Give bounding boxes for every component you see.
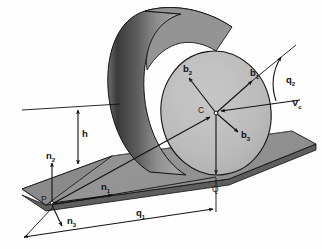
label-n3: n3 (67, 215, 77, 228)
height-dimension-group: h (22, 104, 120, 164)
label-h: h (82, 128, 88, 139)
label-q1: q1 (136, 207, 146, 220)
rolling-cylinder (108, 8, 279, 183)
label-P: P (41, 194, 47, 204)
q2-curved-arrow (273, 57, 281, 101)
label-C: C (198, 105, 204, 115)
point-C-marker (214, 111, 218, 115)
height-upper-extension-line (22, 104, 120, 110)
figure-root: h q1 n2 n1 n3 P (0, 0, 322, 249)
label-b1: b1 (250, 67, 260, 80)
label-Q: Q (212, 184, 219, 194)
q1-dimension-arrow (24, 209, 213, 237)
label-n2: n2 (46, 150, 56, 163)
rolling-disc-diagram: h q1 n2 n1 n3 P (0, 0, 322, 249)
label-q2: q2 (286, 74, 296, 87)
label-Vc: Vc (292, 97, 302, 110)
